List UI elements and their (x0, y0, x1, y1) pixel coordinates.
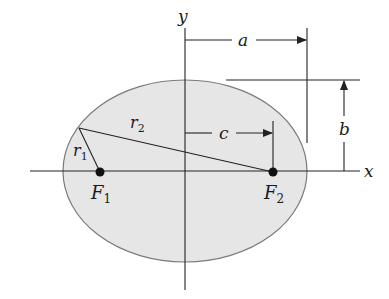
focus-f2-dot (269, 168, 278, 177)
focus-f1-dot (96, 168, 105, 177)
b-label: b (339, 119, 350, 139)
a-label: a (238, 30, 248, 50)
c-label: c (219, 123, 229, 143)
ellipse-diagram: y x a b c r1 r2 F1 F2 (0, 0, 389, 299)
x-axis-label: x (364, 161, 374, 181)
y-axis-label: y (177, 6, 188, 26)
